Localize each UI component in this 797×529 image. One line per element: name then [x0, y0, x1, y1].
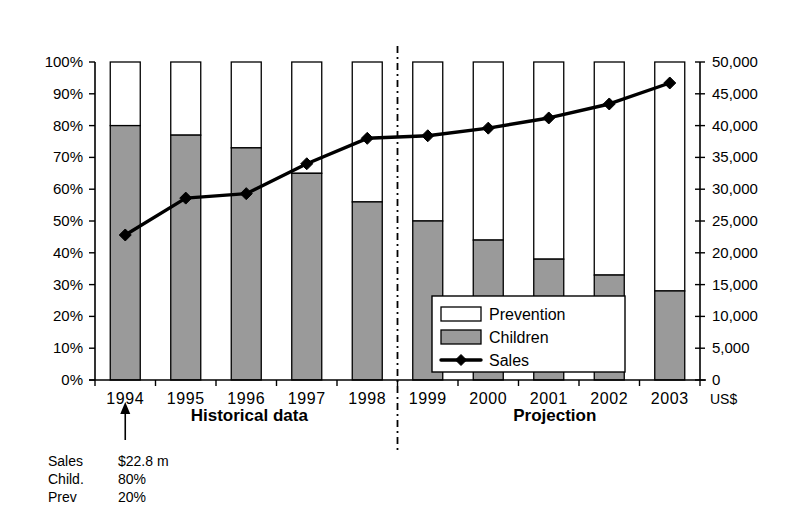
y-axis-right-tick-label: 15,000	[712, 276, 758, 293]
y-axis-right-tick-label: 5,000	[712, 339, 750, 356]
combo-chart: 0%10%20%30%40%50%60%70%80%90%100%05,0001…	[0, 0, 797, 529]
callout-note-value: $22.8 m	[118, 453, 169, 469]
callout-note-value: 80%	[118, 471, 146, 487]
x-axis-tick-label: 1995	[167, 390, 205, 407]
bar-segment-prevention	[110, 62, 140, 126]
x-axis: 1994199519961997199819992000200120022003…	[89, 380, 737, 407]
bar-segment-children	[292, 173, 322, 380]
y-axis-right-tick-label: 20,000	[712, 244, 758, 261]
callout-note-label: Prev	[48, 489, 77, 505]
legend-entry-label: Children	[489, 329, 549, 346]
y-axis-left-tick-label: 40%	[53, 244, 83, 261]
bar-segment-prevention	[231, 62, 261, 148]
y-axis-left-tick-label: 70%	[53, 148, 83, 165]
y-axis-left-tick-label: 60%	[53, 180, 83, 197]
x-axis-tick-label: 2000	[469, 390, 507, 407]
x-axis-tick-label: 2003	[651, 390, 689, 407]
y-axis-right-tick-label: 40,000	[712, 117, 758, 134]
y-axis-left-tick-label: 0%	[61, 371, 83, 388]
bar-segment-prevention	[655, 62, 685, 291]
y-axis-left-tick-label: 20%	[53, 307, 83, 324]
bar-segment-prevention	[594, 62, 624, 275]
right-axis-unit-label: US$	[710, 391, 737, 407]
y-axis-right: 05,00010,00015,00020,00025,00030,00035,0…	[695, 53, 758, 388]
callout-note-value: 20%	[118, 489, 146, 505]
chart-canvas: 0%10%20%30%40%50%60%70%80%90%100%05,0001…	[0, 0, 797, 529]
bar-segment-children	[231, 148, 261, 380]
bar-segment-prevention	[473, 62, 503, 240]
x-axis-tick-label: 2001	[530, 390, 568, 407]
callout-note: Sales$22.8 mChild.80%Prev20%	[48, 453, 169, 505]
y-axis-left-tick-label: 100%	[45, 53, 83, 70]
x-axis-tick-label: 1999	[409, 390, 447, 407]
callout-arrow	[120, 402, 130, 440]
x-axis-tick-label: 1998	[348, 390, 386, 407]
x-axis-tick-label: 1996	[227, 390, 265, 407]
y-axis-left-tick-label: 50%	[53, 212, 83, 229]
bar-segment-children	[352, 202, 382, 380]
legend-entry-label: Sales	[489, 352, 529, 369]
y-axis-left: 0%10%20%30%40%50%60%70%80%90%100%	[45, 53, 95, 388]
y-axis-left-tick-label: 30%	[53, 276, 83, 293]
bar-segment-prevention	[534, 62, 564, 259]
legend-entry-label: Prevention	[489, 306, 566, 323]
x-axis-tick-label: 2002	[590, 390, 628, 407]
historical-data-label: Historical data	[191, 406, 309, 425]
projection-label: Projection	[513, 406, 596, 425]
bar-segment-children	[171, 135, 201, 380]
y-axis-right-tick-label: 35,000	[712, 148, 758, 165]
legend-swatch-children	[441, 330, 481, 344]
sales-line	[125, 83, 670, 235]
x-axis-tick-label: 1997	[288, 390, 326, 407]
y-axis-right-tick-label: 0	[712, 371, 720, 388]
callout-note-label: Sales	[48, 453, 83, 469]
bar-segment-prevention	[292, 62, 322, 173]
y-axis-right-tick-label: 30,000	[712, 180, 758, 197]
chart-legend: PreventionChildrenSales	[432, 296, 625, 372]
bar-segment-prevention	[171, 62, 201, 135]
callout-note-label: Child.	[48, 471, 84, 487]
y-axis-right-tick-label: 10,000	[712, 307, 758, 324]
legend-swatch-prevention	[441, 307, 481, 321]
y-axis-left-tick-label: 10%	[53, 339, 83, 356]
y-axis-left-tick-label: 80%	[53, 117, 83, 134]
bar-segment-children	[110, 126, 140, 380]
bar-segment-children	[655, 291, 685, 380]
y-axis-right-tick-label: 45,000	[712, 85, 758, 102]
y-axis-right-tick-label: 50,000	[712, 53, 758, 70]
y-axis-left-tick-label: 90%	[53, 85, 83, 102]
y-axis-right-tick-label: 25,000	[712, 212, 758, 229]
